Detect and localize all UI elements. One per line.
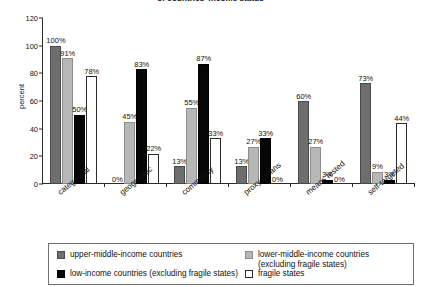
bar-slot: 33%: [210, 18, 221, 184]
bar: [186, 108, 197, 184]
chart-legend: upper-middle-income countrieslower-middl…: [48, 243, 414, 285]
bar-value-label: 0%: [272, 176, 283, 184]
legend-item[interactable]: low-income countries (excluding fragile …: [57, 269, 238, 279]
y-tick-mark: [39, 18, 43, 19]
bar: [50, 46, 61, 184]
y-tick-mark: [39, 184, 43, 185]
bar-slot: 83%: [136, 18, 147, 184]
bar-slot: 87%: [198, 18, 209, 184]
legend-item[interactable]: fragile states: [245, 269, 304, 279]
bar: [174, 166, 185, 184]
legend-item[interactable]: lower-middle-income countries (excluding…: [245, 250, 369, 270]
x-tick-mark: [414, 183, 415, 187]
bar-slot: 50%: [74, 18, 85, 184]
x-tick-mark: [352, 183, 353, 187]
bar-slot: 27%: [248, 18, 259, 184]
bar-value-label: 9%: [372, 163, 383, 171]
chart-container: of countries' income status percent 0204…: [0, 0, 421, 287]
y-tick-mark: [39, 101, 43, 102]
legend-label: lower-middle-income countries (excluding…: [258, 250, 369, 270]
bar-group: 13%27%33%0%: [234, 18, 284, 184]
legend-swatch-icon: [57, 270, 65, 278]
bar-slot: 91%: [62, 18, 73, 184]
legend-label: upper-middle-income countries: [70, 250, 182, 260]
bar-group: 13%55%87%33%: [172, 18, 222, 184]
bar-slot: 13%: [236, 18, 247, 184]
bar-value-label: 44%: [394, 115, 409, 123]
bar-slot: 60%: [298, 18, 309, 184]
y-tick-mark: [39, 45, 43, 46]
chart-title: of countries' income status: [0, 0, 421, 3]
bar-slot: 45%: [124, 18, 135, 184]
x-tick-mark: [290, 183, 291, 187]
bar-slot: 9%: [372, 18, 383, 184]
bar-slot: 22%: [148, 18, 159, 184]
y-tick-mark: [39, 156, 43, 157]
bar-slot: 100%: [50, 18, 61, 184]
bar-slot: 0%: [272, 18, 283, 184]
bar-slot: 0%: [112, 18, 123, 184]
legend-label: low-income countries (excluding fragile …: [70, 269, 238, 279]
bar-value-label: 0%: [112, 176, 123, 184]
bar: [298, 101, 309, 184]
bar: [124, 122, 135, 184]
bar: [210, 138, 221, 184]
x-tick-mark: [166, 183, 167, 187]
bar: [360, 83, 371, 184]
bar-value-label: 78%: [84, 68, 99, 76]
bar-slot: 33%: [260, 18, 271, 184]
legend-swatch-icon: [57, 251, 65, 259]
y-tick-mark: [39, 128, 43, 129]
bar-slot: 3%: [384, 18, 395, 184]
bar-slot: 3%: [322, 18, 333, 184]
bar-group: 100%91%50%78%: [48, 18, 98, 184]
bar-slot: 73%: [360, 18, 371, 184]
legend-swatch-icon: [245, 251, 253, 259]
y-axis-label: percent: [17, 67, 26, 127]
legend-label: fragile states: [258, 269, 304, 279]
y-tick-mark: [39, 73, 43, 74]
bar-slot: 13%: [174, 18, 185, 184]
bar-slot: 78%: [86, 18, 97, 184]
bar-group: 60%27%3%0%: [296, 18, 346, 184]
x-tick-mark: [104, 183, 105, 187]
bar-slot: 27%: [310, 18, 321, 184]
bar-value-label: 33%: [208, 130, 223, 138]
bar-value-label: 22%: [146, 145, 161, 153]
bar-group: 0%45%83%22%: [110, 18, 160, 184]
bar-slot: 55%: [186, 18, 197, 184]
legend-swatch-icon: [245, 270, 253, 278]
legend-item[interactable]: upper-middle-income countries: [57, 250, 182, 260]
bar-slot: 44%: [396, 18, 407, 184]
plot-area: 020406080100120 100%91%50%78%0%45%83%22%…: [42, 18, 414, 184]
bar: [62, 58, 73, 184]
bar-group: 73%9%3%44%: [358, 18, 408, 184]
bar: [236, 166, 247, 184]
x-tick-mark: [228, 183, 229, 187]
bar-value-label: 0%: [334, 176, 345, 184]
